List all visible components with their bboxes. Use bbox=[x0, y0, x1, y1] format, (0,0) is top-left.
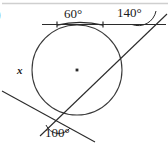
center-dot bbox=[76, 69, 79, 72]
problem-number-label: ) bbox=[0, 8, 1, 22]
angle-100-label: 100° bbox=[45, 126, 70, 139]
angle-140-label: 140° bbox=[117, 6, 142, 19]
geometry-figure: ) 60° 140° 100° x bbox=[0, 0, 168, 143]
figure-canvas bbox=[0, 0, 168, 143]
unknown-arc-label: x bbox=[17, 65, 23, 76]
diagonal-secant-line bbox=[40, 14, 167, 136]
arc-60-label: 60° bbox=[64, 7, 82, 20]
